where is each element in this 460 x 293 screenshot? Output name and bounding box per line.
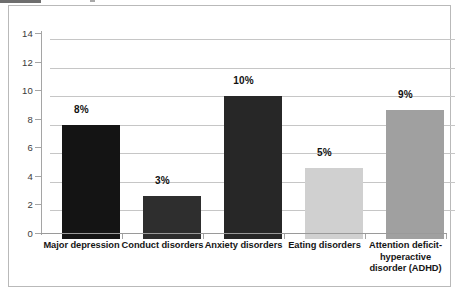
bar-value-label: 3% xyxy=(134,175,192,186)
category-axis-label-line: Eating disorders xyxy=(281,240,368,252)
value-axis-tick xyxy=(35,90,41,91)
bar-value-label: 9% xyxy=(377,89,435,100)
bar-value-label: 8% xyxy=(53,104,111,115)
category-axis-tick xyxy=(365,234,366,239)
category-axis-label-line: Anxiety disorders xyxy=(200,240,287,252)
bar[interactable] xyxy=(386,110,444,239)
value-axis-tick-label: 4 xyxy=(7,170,33,181)
value-axis-tick-label: 12 xyxy=(7,56,33,67)
value-axis-tick xyxy=(35,119,41,120)
category-axis-label: Eating disorders xyxy=(281,240,368,252)
category-axis-label: Anxiety disorders xyxy=(200,240,287,252)
value-axis-tick xyxy=(35,147,41,148)
gridline xyxy=(50,68,455,69)
value-axis-tick-label: 6 xyxy=(7,142,33,153)
category-axis-label: Attention deficit-hyperactivedisorder (A… xyxy=(362,240,449,275)
category-axis-label-line: Major depression xyxy=(38,240,125,252)
value-axis-tick xyxy=(35,62,41,63)
value-axis-tick-label: 14 xyxy=(7,28,33,39)
value-axis-tick xyxy=(35,204,41,205)
category-axis-line xyxy=(35,233,447,234)
bar[interactable] xyxy=(224,96,282,239)
gridline xyxy=(50,39,455,40)
scan-artifact-mark xyxy=(90,0,95,2)
value-axis-labels: 02468101214 xyxy=(5,0,33,293)
category-axis-label-line: disorder (ADHD) xyxy=(362,263,449,275)
value-axis-tick xyxy=(35,33,41,34)
category-axis-tick xyxy=(203,234,204,239)
bar[interactable] xyxy=(62,125,120,239)
bar-value-label: 10% xyxy=(215,75,273,86)
bar-value-label: 5% xyxy=(296,147,354,158)
category-axis-label-line: hyperactive xyxy=(362,252,449,264)
category-axis-label: Conduct disorders xyxy=(119,240,206,252)
plot-area xyxy=(50,39,455,239)
category-axis-tick xyxy=(122,234,123,239)
category-axis-label: Major depression xyxy=(38,240,125,252)
value-axis-line xyxy=(41,31,42,235)
value-axis-tick-label: 2 xyxy=(7,199,33,210)
value-axis-tick-label: 8 xyxy=(7,113,33,124)
bar[interactable] xyxy=(305,168,363,239)
category-axis-label-line: Conduct disorders xyxy=(119,240,206,252)
value-axis-tick xyxy=(35,233,41,234)
category-axis-label-line: Attention deficit- xyxy=(362,240,449,252)
value-axis-tick xyxy=(35,176,41,177)
category-axis-tick xyxy=(284,234,285,239)
value-axis-tick-label: 10 xyxy=(7,85,33,96)
value-axis-tick-label: 0 xyxy=(7,228,33,239)
category-axis-tick xyxy=(446,234,447,239)
